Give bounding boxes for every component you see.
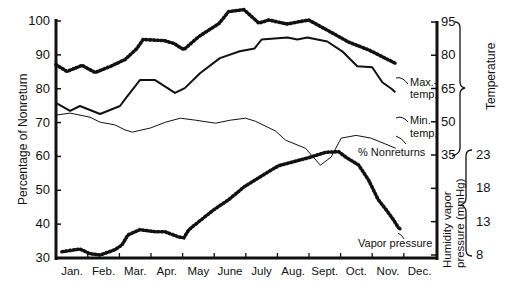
right-axis-temp-tick-label: 50: [441, 115, 455, 128]
right-axis-temperature-title: Temperature: [484, 43, 498, 110]
month-label: Feb.: [90, 265, 118, 277]
min-temp-leader: [396, 117, 408, 122]
right-axis-vapor-tick-label: 23: [476, 148, 490, 161]
month-label: Nov.: [374, 265, 402, 277]
left-axis-tick-label: 80: [36, 82, 50, 95]
min-temp-label-line2: temp.: [410, 127, 438, 139]
right-axis-vapor-title-line1: Humidity vapor: [441, 191, 453, 268]
left-axis-tick-label: 60: [36, 149, 50, 162]
max-temp-markers: [56, 10, 397, 73]
right-axis-temp-tick-label: 35: [441, 148, 455, 161]
left-axis-tick-label: 50: [36, 183, 50, 196]
month-label: Jan.: [58, 265, 86, 277]
nonreturns-leader: [396, 136, 406, 144]
left-axis-title: Percentage of Nonreturn: [16, 74, 30, 205]
month-label: July: [248, 265, 276, 277]
left-axis-tick-label: 70: [36, 116, 50, 129]
vapor-pressure-label: Vapor pressure: [358, 237, 432, 249]
chart-plot: [0, 0, 505, 293]
month-label: Apr.: [153, 265, 181, 277]
left-axis-tick-label: 100: [28, 14, 50, 27]
month-label: Oct.: [342, 265, 370, 277]
nonreturns-label: % Nonreturns: [358, 146, 425, 158]
month-label: May: [184, 265, 212, 277]
month-label: Sept.: [311, 265, 339, 277]
right-axis-temp-tick-label: 95: [441, 15, 455, 28]
left-axis-tick-label: 40: [36, 217, 50, 230]
right-axis-vapor-tick-label: 18: [476, 181, 490, 194]
right-axis-vapor-tick-label: 8: [476, 248, 483, 261]
min-temp-line: [56, 38, 395, 115]
month-label: June: [216, 265, 244, 277]
min-temp-label-line1: Min.-: [410, 114, 434, 126]
month-label: Dec.: [406, 265, 434, 277]
left-axis-tick-label: 90: [36, 48, 50, 61]
max-temp-leader: [396, 78, 408, 84]
month-label: Mar.: [121, 265, 149, 277]
right-axis-temp-tick-label: 80: [441, 48, 455, 61]
right-axis-vapor-title-line2: pressure (mmHg): [454, 179, 466, 268]
left-axis-tick-label: 30: [36, 251, 50, 264]
right-axis-temp-tick-label: 65: [441, 82, 455, 95]
max-temp-label-line2: temp.: [410, 88, 438, 100]
month-label: Aug.: [279, 265, 307, 277]
right-axis-vapor-tick-label: 13: [476, 215, 490, 228]
max-temp-label-line1: Max.-: [410, 76, 438, 88]
vapor-pressure-line: [62, 152, 401, 255]
vapor-pressure-markers: [62, 152, 401, 255]
